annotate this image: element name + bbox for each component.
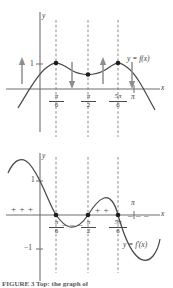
- sign-band-positive-1: + + +: [11, 205, 34, 214]
- point-local-min: [86, 72, 91, 77]
- x-tick-label-pi-over-2-lower: π 2: [81, 219, 96, 236]
- arrow-down-1: [69, 62, 75, 89]
- zero-pi-over-2: [86, 213, 91, 218]
- arrow-up-1: [19, 57, 25, 84]
- sign-band-positive-2: + +: [95, 206, 109, 215]
- upper-graph-svg: [0, 0, 173, 143]
- x-tick-label-pi-over-2-upper: π 2: [81, 93, 96, 110]
- x-tick-label-pi-over-6-upper: π 6: [49, 93, 64, 110]
- y-axis-label-lower: y: [42, 152, 45, 160]
- zero-pi-over-6: [54, 213, 59, 218]
- figure-caption: FIGURE 3 Top: the graph of: [2, 280, 88, 288]
- point-local-max-1: [54, 61, 59, 66]
- y-tick-label-1-lower: 1: [31, 176, 35, 184]
- curve-label-f: y = f(x): [127, 55, 150, 63]
- curve-label-f-prime: y = f′(x): [123, 241, 147, 249]
- zero-5pi-over-6: [116, 213, 121, 218]
- x-axis-label-upper: x: [161, 84, 164, 92]
- x-tick-label-5pi-over-6-upper: 5π 6: [109, 93, 127, 110]
- sign-band-negative-1: – – –: [62, 220, 83, 229]
- y-axis-label-upper: y: [42, 12, 45, 20]
- y-tick-label-1-upper: 1: [30, 60, 34, 68]
- point-local-max-2: [116, 61, 121, 66]
- y-tick-label-neg1-lower: −1: [24, 244, 32, 252]
- x-tick-label-pi-lower: π: [131, 199, 135, 207]
- x-axis-label-lower: x: [161, 210, 164, 218]
- x-tick-label-5pi-over-6-lower: 5π 6: [109, 219, 127, 236]
- sign-band-negative-2: – – –: [128, 211, 149, 220]
- x-tick-label-pi-upper: π: [131, 93, 135, 101]
